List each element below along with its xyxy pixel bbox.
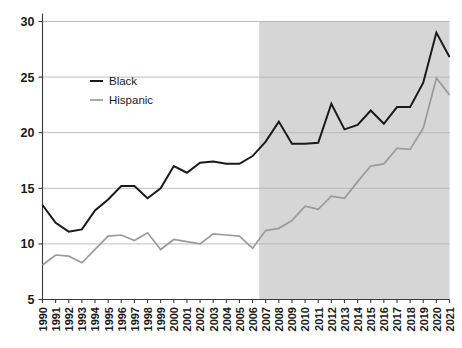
legend-label-black: Black (109, 75, 137, 87)
x-tick-label: 2000 (168, 307, 180, 331)
x-tick-label: 1990 (37, 307, 49, 331)
chart-legend: BlackHispanic (90, 75, 153, 106)
x-tick-label: 2002 (194, 307, 206, 331)
x-tick-label: 1999 (155, 307, 167, 331)
line-chart: 51015202530 1990199119921993199419951996… (0, 0, 462, 348)
x-tick-label: 2006 (247, 307, 259, 331)
x-tick-label: 1995 (103, 307, 115, 331)
x-tick-label: 2008 (273, 307, 285, 331)
x-tick-label: 1998 (142, 307, 154, 331)
shaded-region-layer (259, 22, 449, 300)
x-tick-label: 2010 (299, 307, 311, 331)
x-tick-label: 2019 (418, 307, 430, 331)
shaded-region (259, 22, 449, 300)
chart-container: 51015202530 1990199119921993199419951996… (0, 0, 462, 348)
x-tick-label: 2020 (431, 307, 443, 331)
x-tick-label: 2012 (326, 307, 338, 331)
y-tick-label: 30 (21, 15, 35, 29)
y-axis-tick-labels: 51015202530 (21, 15, 43, 307)
y-tick-label: 5 (28, 293, 35, 307)
legend-label-hispanic: Hispanic (109, 94, 153, 106)
x-tick-label: 2015 (365, 307, 377, 331)
x-tick-label: 2007 (260, 307, 272, 331)
y-tick-label: 25 (21, 71, 35, 85)
x-tick-label: 1991 (50, 307, 62, 331)
x-tick-label: 1993 (76, 307, 88, 331)
x-tick-label: 1997 (129, 307, 141, 331)
x-tick-label: 2005 (234, 307, 246, 331)
x-tick-label: 2017 (391, 307, 403, 331)
y-tick-label: 15 (21, 182, 35, 196)
x-tick-label: 2011 (313, 307, 325, 331)
x-tick-label: 2004 (221, 306, 233, 331)
x-tick-label: 1996 (116, 307, 128, 331)
x-tick-label: 2014 (352, 306, 364, 331)
y-tick-label: 10 (21, 237, 35, 251)
x-tick-label: 2018 (405, 307, 417, 331)
x-axis-tick-labels: 1990199119921993199419951996199719981999… (37, 300, 456, 332)
x-tick-label: 1992 (63, 307, 75, 331)
x-tick-label: 2021 (444, 307, 456, 331)
x-tick-label: 2001 (181, 307, 193, 331)
y-tick-label: 20 (21, 126, 35, 140)
x-tick-label: 2003 (208, 307, 220, 331)
x-tick-label: 2009 (286, 307, 298, 331)
x-tick-label: 2013 (339, 307, 351, 331)
x-tick-label: 2016 (378, 307, 390, 331)
x-tick-label: 1994 (89, 306, 101, 331)
